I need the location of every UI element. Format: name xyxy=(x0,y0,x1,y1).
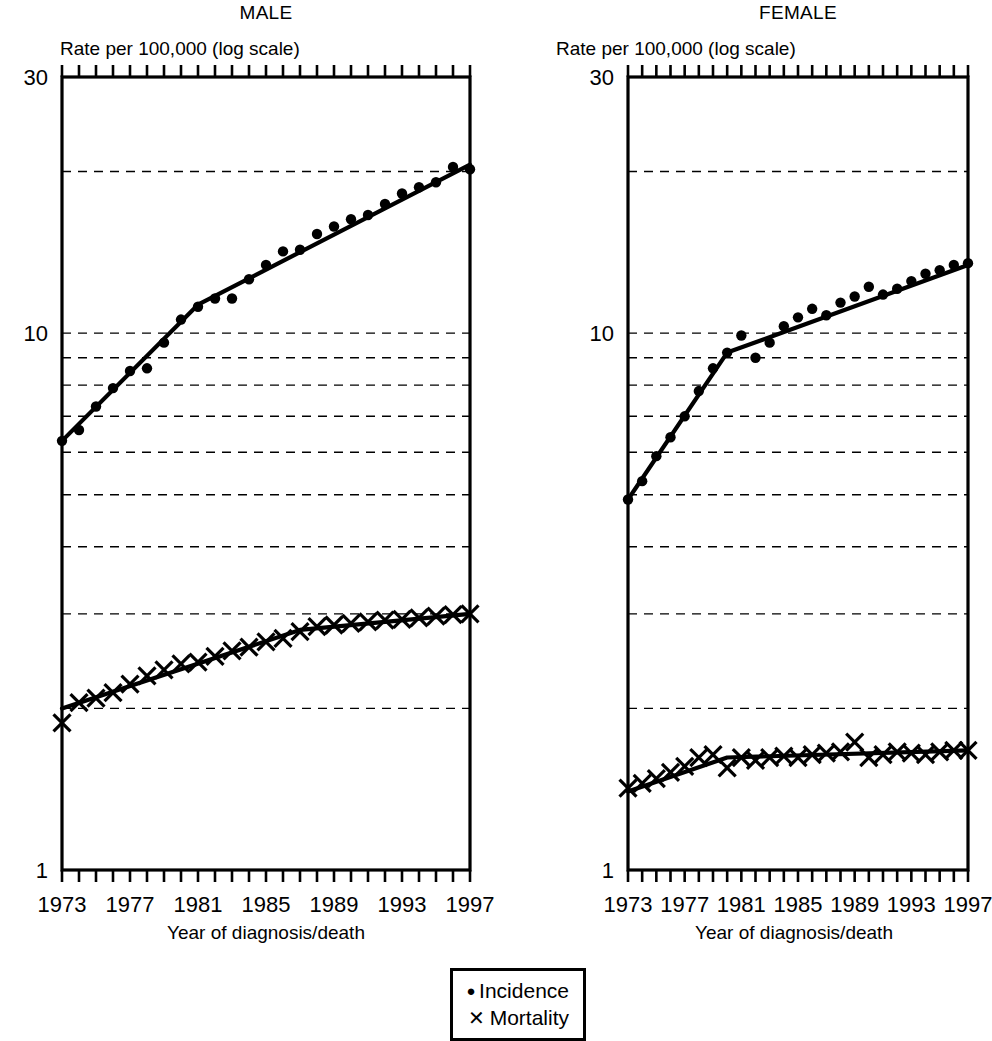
data-point-incidence-female xyxy=(764,337,774,347)
data-point-incidence-male xyxy=(295,245,305,255)
y-tick-label-male: 1 xyxy=(36,858,48,883)
data-point-incidence-female xyxy=(949,260,959,270)
data-point-mortality-female xyxy=(690,749,707,766)
data-point-incidence-female xyxy=(878,289,888,299)
x-tick-label-female: 1981 xyxy=(717,892,766,917)
data-point-incidence-male xyxy=(159,337,169,347)
dot-marker-icon: ● xyxy=(465,983,477,998)
x-tick-label-male: 1977 xyxy=(106,892,155,917)
x-tick-label-male: 1989 xyxy=(310,892,359,917)
data-point-incidence-female xyxy=(722,347,732,357)
x-tick-label-female: 1989 xyxy=(830,892,879,917)
data-point-incidence-male xyxy=(244,274,254,284)
data-point-incidence-male xyxy=(363,210,373,220)
data-point-incidence-female xyxy=(821,310,831,320)
y-tick-label-female: 10 xyxy=(590,321,614,346)
data-point-incidence-male xyxy=(142,363,152,373)
data-point-incidence-male xyxy=(397,188,407,198)
data-point-incidence-male xyxy=(125,366,135,376)
cross-marker-icon: ✕ xyxy=(465,1008,488,1028)
data-point-incidence-female xyxy=(637,476,647,486)
data-point-mortality-female xyxy=(846,734,863,751)
fit-line-incidence-male xyxy=(62,165,470,441)
figure-root: MALE Rate per 100,000 (log scale) Year o… xyxy=(0,0,992,1041)
data-point-incidence-male xyxy=(193,302,203,312)
data-point-incidence-male xyxy=(57,436,67,446)
data-point-mortality-female xyxy=(719,759,736,776)
data-point-incidence-male xyxy=(108,383,118,393)
data-point-incidence-female xyxy=(920,269,930,279)
data-point-incidence-female xyxy=(864,282,874,292)
data-point-incidence-female xyxy=(708,363,718,373)
data-point-incidence-female xyxy=(665,432,675,442)
data-point-incidence-female xyxy=(835,297,845,307)
data-point-incidence-male xyxy=(380,199,390,209)
x-tick-label-male: 1981 xyxy=(174,892,223,917)
x-tick-label-male: 1985 xyxy=(242,892,291,917)
data-point-incidence-male xyxy=(176,314,186,324)
data-point-incidence-female xyxy=(736,330,746,340)
data-point-mortality-female xyxy=(832,743,849,760)
y-tick-label-female: 30 xyxy=(590,65,614,90)
data-point-mortality-female xyxy=(747,752,764,769)
legend-item-mortality: ✕ Mortality xyxy=(465,1005,569,1033)
chart-canvas: 1973197719811985198919931997301011973197… xyxy=(0,0,992,1041)
data-point-incidence-male xyxy=(414,182,424,192)
x-tick-label-female: 1973 xyxy=(604,892,653,917)
data-point-incidence-female xyxy=(793,312,803,322)
y-tick-label-male: 10 xyxy=(24,321,48,346)
legend: ● Incidence ✕ Mortality xyxy=(450,968,586,1041)
data-point-incidence-male xyxy=(278,246,288,256)
data-point-incidence-male xyxy=(346,214,356,224)
data-point-incidence-female xyxy=(623,494,633,504)
legend-item-incidence: ● Incidence xyxy=(465,977,569,1005)
x-tick-label-female: 1985 xyxy=(774,892,823,917)
data-point-incidence-female xyxy=(849,291,859,301)
data-point-incidence-female xyxy=(679,411,689,421)
fit-line-incidence-female xyxy=(628,265,968,500)
x-tick-label-male: 1997 xyxy=(446,892,495,917)
data-point-incidence-female xyxy=(963,258,973,268)
x-tick-label-male: 1993 xyxy=(378,892,427,917)
data-point-incidence-male xyxy=(465,164,475,174)
data-point-incidence-male xyxy=(329,221,339,231)
data-point-incidence-male xyxy=(431,177,441,187)
x-tick-label-female: 1997 xyxy=(944,892,992,917)
data-point-incidence-female xyxy=(651,451,661,461)
data-point-incidence-male xyxy=(74,425,84,435)
x-tick-label-female: 1993 xyxy=(887,892,936,917)
data-point-incidence-female xyxy=(934,265,944,275)
data-point-incidence-male xyxy=(261,260,271,270)
data-point-incidence-female xyxy=(807,304,817,314)
data-point-incidence-female xyxy=(779,321,789,331)
data-point-incidence-female xyxy=(694,386,704,396)
legend-label-incidence: Incidence xyxy=(479,979,569,1003)
x-tick-label-female: 1977 xyxy=(660,892,709,917)
data-point-incidence-male xyxy=(227,293,237,303)
x-tick-label-male: 1973 xyxy=(38,892,87,917)
data-point-incidence-female xyxy=(892,284,902,294)
y-tick-label-male: 30 xyxy=(24,65,48,90)
y-tick-label-female: 1 xyxy=(602,858,614,883)
data-point-incidence-male xyxy=(448,162,458,172)
data-point-incidence-female xyxy=(906,276,916,286)
data-point-incidence-male xyxy=(312,229,322,239)
data-point-incidence-male xyxy=(91,401,101,411)
legend-label-mortality: Mortality xyxy=(490,1006,569,1030)
data-point-incidence-female xyxy=(750,353,760,363)
data-point-incidence-male xyxy=(210,293,220,303)
